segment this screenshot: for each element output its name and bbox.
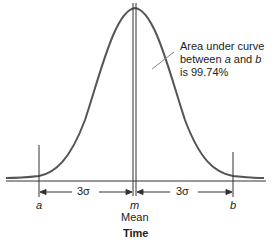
- annotation-line-1: Area under curve: [180, 40, 264, 53]
- annotation-line-2: between a and b: [180, 53, 264, 66]
- a-label: a: [36, 199, 42, 211]
- annotation-leader: [152, 52, 174, 69]
- annotation-b: b: [255, 53, 261, 65]
- right-span-label: 3σ: [176, 185, 189, 197]
- bell-curve: [6, 8, 264, 178]
- mean-label: Mean: [121, 211, 149, 223]
- m-label: m: [130, 199, 139, 211]
- left-span-label: 3σ: [77, 185, 90, 197]
- annotation-text: and: [231, 53, 255, 65]
- b-label: b: [230, 199, 236, 211]
- annotation-text: between: [180, 53, 225, 65]
- annotation-line-3: is 99.74%: [180, 66, 264, 79]
- area-annotation: Area under curve between a and b is 99.7…: [180, 40, 264, 79]
- x-axis-label: Time: [123, 227, 148, 239]
